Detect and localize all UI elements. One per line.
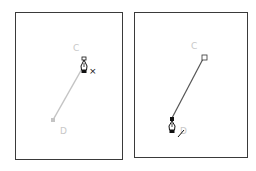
left-path — [51, 67, 83, 122]
illustration-canvas: C D × C D — [0, 0, 256, 171]
pen-cursor-icon — [81, 57, 87, 73]
label-d: D — [60, 126, 67, 136]
pen-cursor-icon — [169, 117, 175, 133]
anchor-point-c — [202, 55, 207, 60]
anchor-point-d — [51, 118, 55, 122]
right-path — [172, 55, 207, 118]
label-c: C — [73, 43, 79, 53]
delete-modifier-icon: × — [89, 66, 97, 76]
label-c: C — [191, 41, 197, 51]
